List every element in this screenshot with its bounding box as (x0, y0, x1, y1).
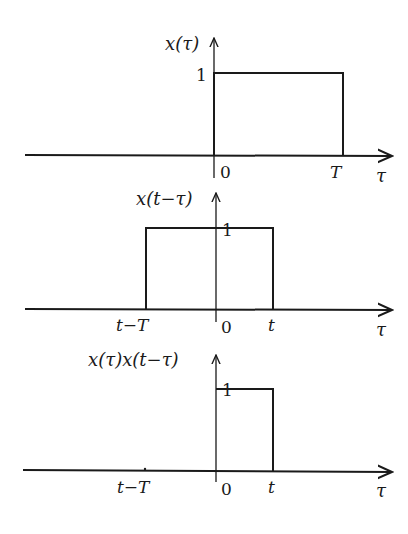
tau-axis (25, 309, 392, 310)
height-label: 1 (222, 220, 233, 240)
xlabel: τ (376, 319, 387, 340)
tick-T: T (330, 162, 343, 182)
tick-t-minus-T: t−T (116, 315, 150, 335)
panel-x-tau: x(τ) 1 0 T τ (25, 33, 392, 186)
tick-t: t (268, 477, 275, 497)
tick-0: 0 (220, 162, 231, 182)
tick-t: t (268, 315, 275, 335)
pulse (214, 73, 343, 156)
tau-axis (25, 155, 392, 156)
xlabel: τ (376, 165, 387, 186)
tau-axis (23, 470, 392, 472)
height-label: 1 (222, 380, 233, 400)
ylabel: x(τ)x(t−τ) (88, 349, 179, 370)
panel-product: x(τ)x(t−τ) 1 t−T 0 t τ (23, 349, 392, 501)
panel-x-t-minus-tau: x(t−τ) 1 t−T 0 t τ (25, 188, 392, 340)
ylabel: x(t−τ) (136, 188, 192, 209)
pulse (146, 228, 273, 309)
convolution-diagram: x(τ) 1 0 T τ x(t−τ) 1 t−T 0 t τ x(τ)x(t−… (0, 0, 408, 534)
pulse (216, 389, 273, 471)
tick-0: 0 (221, 479, 232, 499)
tick-0: 0 (221, 317, 232, 337)
height-label: 1 (196, 65, 207, 85)
xlabel: τ (376, 480, 387, 501)
tick-mark-t-minus-T (144, 468, 146, 470)
tick-t-minus-T: t−T (117, 477, 151, 497)
ylabel: x(τ) (165, 33, 199, 54)
